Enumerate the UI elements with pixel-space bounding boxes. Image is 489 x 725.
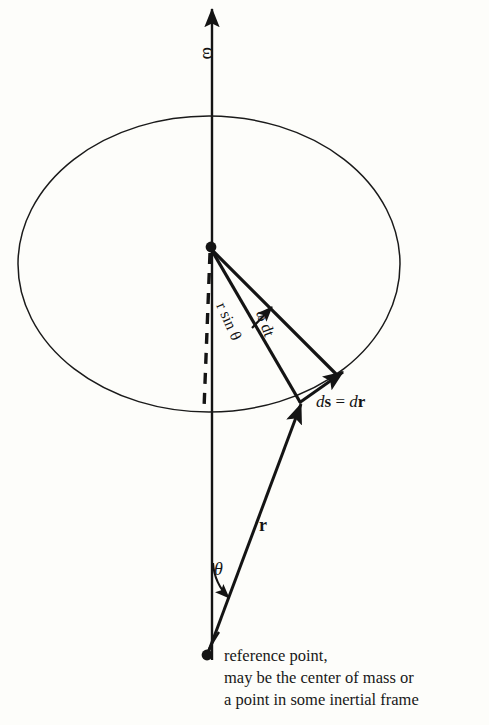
theta-angle-label: θ	[214, 560, 223, 578]
ds-equals-sign: =	[331, 392, 349, 411]
r-vector-line	[208, 404, 301, 653]
figure-canvas: ω r sin θ ω dt ds = dr r θ reference poi…	[0, 0, 489, 725]
r-vector-label: r	[259, 516, 267, 534]
dr-r-bold: r	[358, 392, 366, 411]
caption-line-2: may be the center of mass or	[224, 667, 419, 689]
omega-axis-label: ω	[200, 47, 219, 60]
projection-dashed-line	[204, 253, 210, 409]
axis-origin-dot-icon	[206, 242, 217, 253]
physics-diagram	[0, 0, 489, 725]
ds-equals-dr-label: ds = dr	[316, 393, 365, 410]
figure-caption: reference point, may be the center of ma…	[224, 645, 419, 711]
caption-line-1: reference point,	[224, 645, 419, 667]
reference-point-dot-icon	[202, 650, 213, 661]
ds-d-italic: d	[316, 392, 325, 411]
caption-line-3: a point in some inertial frame	[224, 689, 419, 711]
rotation-circle-ellipse	[18, 116, 400, 412]
dr-d-italic: d	[349, 392, 358, 411]
